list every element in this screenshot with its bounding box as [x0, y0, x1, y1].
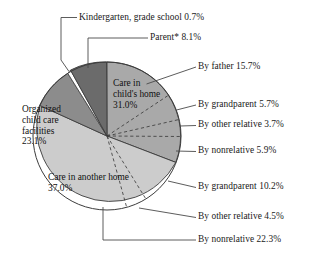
leader-kindergarten: [61, 18, 77, 72]
callout-label-parent: Parent* 8.1%: [150, 32, 201, 43]
leader-by-nonrelative-2: [103, 207, 196, 240]
inside-label-organized-child-care-facilities: Organized child care facilities 23.1%: [22, 104, 61, 147]
pie-chart-figure: Kindergarten, grade school 0.7% Parent* …: [0, 0, 323, 259]
leader-by-other-relative-1: [180, 126, 196, 127]
callout-label-kindergarten: Kindergarten, grade school 0.7%: [79, 12, 204, 23]
right-label-by-other-relative-1: By other relative 3.7%: [198, 119, 284, 130]
inside-label-care-in-another-home: Care in another home 37.0%: [48, 172, 129, 194]
right-label-by-other-relative-2: By other relative 4.5%: [198, 211, 284, 222]
inside-label-care-in-childs-home: Care in child's home 31.0%: [113, 78, 160, 110]
right-label-by-nonrelative-1: By nonrelative 5.9%: [198, 145, 276, 156]
right-label-by-grandparent-1: By grandparent 5.7%: [198, 99, 279, 110]
right-label-by-nonrelative-2: By nonrelative 22.3%: [198, 234, 281, 245]
right-label-by-father: By father 15.7%: [198, 61, 260, 72]
leader-by-nonrelative-1: [176, 151, 196, 152]
right-label-by-grandparent-2: By grandparent 10.2%: [198, 181, 284, 192]
leader-by-grandparent-1: [177, 105, 197, 110]
leader-by-grandparent-2: [168, 181, 196, 188]
leader-by-other-relative-2: [139, 208, 196, 218]
